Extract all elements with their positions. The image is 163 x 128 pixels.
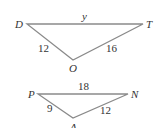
vertex-o-label: O [69,62,77,74]
side-ot-label: 16 [106,42,118,54]
triangle-dot: D T O y 12 16 [14,10,153,74]
vertex-a-label: A [69,121,77,128]
side-pa-label: 9 [47,102,53,114]
side-pn-label: 18 [78,80,90,92]
vertex-p-label: P [27,88,35,100]
similar-triangles-diagram: D T O y 12 16 P N A 18 9 12 [0,0,163,128]
vertex-d-label: D [14,18,23,30]
vertex-t-label: T [146,18,153,30]
side-do-label: 12 [38,42,49,54]
triangle-pan: P N A 18 9 12 [27,80,139,128]
vertex-n-label: N [130,88,139,100]
side-dt-label: y [81,10,87,22]
side-an-label: 12 [100,104,111,116]
